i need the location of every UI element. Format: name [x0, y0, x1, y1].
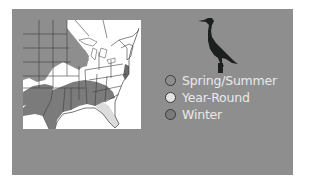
legend-label: Winter [182, 108, 222, 122]
map-legend: Spring/Summer Year-Round Winter [165, 72, 277, 123]
legend-label: Year-Round [182, 91, 250, 105]
year-round-region-florida [95, 102, 119, 128]
range-map [23, 20, 141, 129]
legend-item-winter: Winter [165, 106, 277, 123]
legend-item-year-round: Year-Round [165, 89, 277, 106]
cormorant-silhouette-icon [196, 13, 242, 73]
legend-item-spring-summer: Spring/Summer [165, 72, 277, 89]
legend-label: Spring/Summer [182, 74, 277, 88]
winter-swatch-icon [165, 109, 176, 120]
north-america-map [23, 20, 141, 129]
year-round-swatch-icon [165, 92, 176, 103]
spring-summer-swatch-icon [165, 75, 176, 86]
